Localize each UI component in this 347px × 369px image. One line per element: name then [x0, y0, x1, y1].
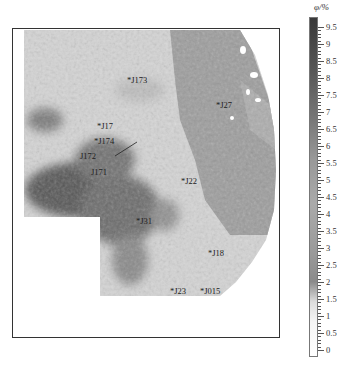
well-label-j174: *J174 — [94, 137, 114, 146]
well-label-j18: *J18 — [208, 249, 224, 258]
colorbar-minor-tick — [318, 98, 321, 99]
colorbar-minor-tick — [318, 279, 321, 280]
colorbar-minor-tick — [318, 319, 321, 320]
colorbar-tick-label: 3 — [326, 244, 330, 253]
colorbar-minor-tick — [318, 75, 321, 76]
colorbar-minor-tick — [318, 302, 321, 303]
colorbar-tick-label: 8.5 — [326, 57, 337, 66]
colorbar-minor-tick — [318, 112, 324, 113]
colorbar-minor-tick — [318, 248, 324, 249]
porosity-map — [0, 0, 300, 369]
colorbar-minor-tick — [318, 228, 321, 229]
colorbar-minor-tick — [318, 44, 324, 45]
colorbar-minor-tick — [318, 330, 321, 331]
colorbar-tick-label: 2.5 — [326, 261, 337, 270]
colorbar-minor-tick — [318, 47, 321, 48]
colorbar-minor-tick — [318, 163, 324, 164]
colorbar-minor-tick — [318, 299, 324, 300]
colorbar-tick-label: 1.5 — [326, 295, 337, 304]
colorbar-minor-tick — [318, 34, 321, 35]
colorbar-minor-tick — [318, 139, 321, 140]
colorbar — [309, 17, 318, 357]
colorbar-minor-tick — [318, 156, 321, 157]
colorbar-minor-tick — [318, 200, 321, 201]
colorbar-minor-tick — [318, 241, 321, 242]
colorbar-minor-tick — [318, 285, 321, 286]
colorbar-minor-tick — [318, 37, 321, 38]
colorbar-tick-label: 0.5 — [326, 329, 337, 338]
colorbar-minor-tick — [318, 306, 321, 307]
colorbar-minor-tick — [318, 177, 321, 178]
colorbar-minor-tick — [318, 173, 321, 174]
colorbar-minor-tick — [318, 85, 321, 86]
colorbar-minor-tick — [318, 340, 321, 341]
colorbar-minor-tick — [318, 316, 324, 317]
well-label-j015: *J015 — [200, 287, 220, 296]
well-label-j23: *J23 — [170, 287, 186, 296]
colorbar-minor-tick — [318, 58, 321, 59]
colorbar-minor-tick — [318, 197, 324, 198]
colorbar-tick-label: 9 — [326, 40, 330, 49]
colorbar-minor-tick — [318, 231, 324, 232]
colorbar-minor-tick — [318, 109, 321, 110]
colorbar-minor-tick — [318, 149, 321, 150]
colorbar-minor-tick — [318, 309, 321, 310]
colorbar-minor-tick — [318, 289, 321, 290]
colorbar-minor-tick — [318, 126, 321, 127]
colorbar-minor-tick — [318, 27, 324, 28]
colorbar-tick-label: 6.5 — [326, 125, 337, 134]
colorbar-title: φ/% — [314, 2, 329, 12]
colorbar-tick-label: 7.5 — [326, 91, 337, 100]
colorbar-minor-tick — [318, 30, 321, 31]
colorbar-tick-label: 5.5 — [326, 159, 337, 168]
colorbar-tick-label: 4 — [326, 210, 330, 219]
colorbar-minor-tick — [318, 105, 321, 106]
colorbar-minor-tick — [318, 292, 321, 293]
colorbar-minor-tick — [318, 217, 321, 218]
colorbar-minor-tick — [318, 258, 321, 259]
well-label-j171: J171 — [91, 168, 107, 177]
colorbar-minor-tick — [318, 211, 321, 212]
colorbar-minor-tick — [318, 180, 324, 181]
colorbar-minor-tick — [318, 214, 324, 215]
colorbar-minor-tick — [318, 296, 321, 297]
colorbar-tick-label: 8 — [326, 74, 330, 83]
colorbar-minor-tick — [318, 272, 321, 273]
colorbar-tick-label: 9.5 — [326, 23, 337, 32]
colorbar-minor-tick — [318, 88, 321, 89]
colorbar-minor-tick — [318, 129, 324, 130]
colorbar-minor-tick — [318, 92, 321, 93]
colorbar-minor-tick — [318, 166, 321, 167]
colorbar-minor-tick — [318, 51, 321, 52]
colorbar-minor-tick — [318, 41, 321, 42]
colorbar-minor-tick — [318, 153, 321, 154]
colorbar-minor-tick — [318, 190, 321, 191]
colorbar-minor-tick — [318, 95, 324, 96]
colorbar-tick-label: 5 — [326, 176, 330, 185]
colorbar-minor-tick — [318, 282, 324, 283]
colorbar-minor-tick — [318, 71, 321, 72]
colorbar-minor-tick — [318, 102, 321, 103]
colorbar-minor-tick — [318, 251, 321, 252]
colorbar-minor-tick — [318, 323, 321, 324]
colorbar-minor-tick — [318, 262, 321, 263]
colorbar-tick-label: 6 — [326, 142, 330, 151]
well-label-j22: *J22 — [181, 177, 197, 186]
colorbar-minor-tick — [318, 268, 321, 269]
colorbar-minor-tick — [318, 194, 321, 195]
colorbar-minor-tick — [318, 255, 321, 256]
colorbar-minor-tick — [318, 143, 321, 144]
colorbar-tick-label: 1 — [326, 312, 330, 321]
colorbar-minor-tick — [318, 221, 321, 222]
colorbar-minor-tick — [318, 146, 324, 147]
colorbar-minor-tick — [318, 183, 321, 184]
colorbar-tick-label: 2 — [326, 278, 330, 287]
colorbar-minor-tick — [318, 245, 321, 246]
colorbar-minor-tick — [318, 343, 321, 344]
colorbar-minor-tick — [318, 54, 321, 55]
colorbar-minor-tick — [318, 136, 321, 137]
colorbar-minor-tick — [318, 347, 321, 348]
colorbar-minor-tick — [318, 64, 321, 65]
colorbar-minor-tick — [318, 265, 324, 266]
well-label-j27: *J27 — [216, 101, 232, 110]
